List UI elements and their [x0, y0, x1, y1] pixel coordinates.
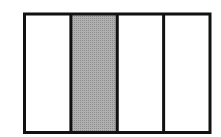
fraction-diagram	[0, 0, 221, 137]
unshaded-part	[164, 14, 210, 133]
unshaded-part	[117, 14, 163, 133]
shaded-part	[71, 14, 117, 133]
unshaded-part	[25, 14, 71, 133]
